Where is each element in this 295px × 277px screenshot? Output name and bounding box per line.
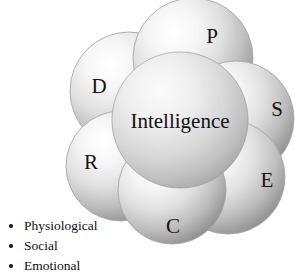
core-label: Intelligence xyxy=(130,109,229,133)
list-item: Physiological xyxy=(4,216,154,236)
petal-label-d: D xyxy=(91,74,106,98)
petal-label-s: S xyxy=(271,97,283,121)
petal-label-e: E xyxy=(261,168,274,192)
list-item: Emotional xyxy=(4,256,154,276)
bullet-icon xyxy=(9,244,13,248)
bullet-icon xyxy=(9,264,13,268)
petal-label-c: C xyxy=(166,214,180,238)
list-item: Social xyxy=(4,236,154,256)
legend-item-label: Social xyxy=(24,238,58,253)
petal-label-p: P xyxy=(206,24,218,48)
legend-list: Physiological Social Emotional xyxy=(4,216,154,276)
legend-item-label: Physiological xyxy=(24,218,98,233)
bullet-icon xyxy=(9,224,13,228)
petal-label-r: R xyxy=(84,150,98,174)
legend-item-label: Emotional xyxy=(24,258,80,273)
